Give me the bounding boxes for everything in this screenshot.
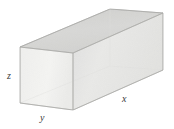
dimension-label-z: z — [7, 71, 11, 81]
dimension-label-x: x — [122, 94, 126, 104]
rectangular-box-graphic — [0, 0, 174, 129]
front-left-face — [20, 47, 73, 110]
box-figure: z y x — [0, 0, 174, 129]
dimension-label-y: y — [40, 113, 44, 123]
